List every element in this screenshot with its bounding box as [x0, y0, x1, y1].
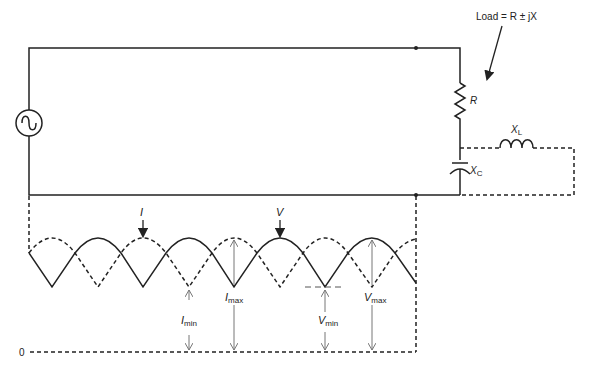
circuit: [16, 26, 574, 197]
current-waveform: [29, 238, 416, 287]
capacitor-icon: [450, 163, 470, 195]
top-wire: [29, 48, 460, 110]
i-max-label: Imax: [225, 291, 243, 305]
bottom-wire: [29, 136, 460, 195]
top-junction-dot: [414, 46, 418, 50]
v-max-label: Vmax: [364, 291, 386, 305]
v-min-label: Vmin: [318, 314, 338, 328]
load-arrow-icon: [488, 26, 502, 76]
ac-source-icon: [16, 110, 42, 136]
i-min-label: Imin: [181, 314, 197, 328]
current-wave-label: I: [140, 206, 143, 218]
inductor-icon: [500, 140, 533, 148]
zero-label: 0: [19, 347, 25, 358]
capacitor-label: XC: [469, 165, 483, 178]
voltage-waveform: [29, 238, 416, 287]
standing-wave-diagram: Load = R ± jX R XL XC I V Imin Imax: [0, 0, 596, 372]
voltage-wave-label: V: [276, 206, 285, 218]
dimension-lines: [189, 240, 372, 350]
load-label: Load = R ± jX: [476, 11, 537, 22]
inductor-label: XL: [510, 124, 523, 137]
resistor-label: R: [470, 95, 477, 106]
